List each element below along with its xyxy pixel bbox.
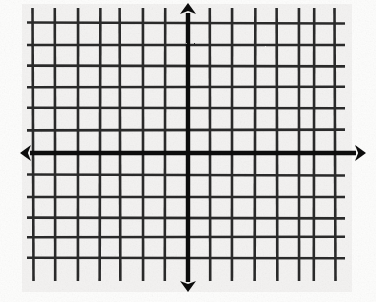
- grid-line-vertical: [335, 8, 336, 281]
- grid-line-vertical: [255, 8, 256, 281]
- grid-line-vertical: [33, 8, 34, 281]
- coordinate-grid-svg: [0, 0, 376, 302]
- grid-line-vertical: [277, 8, 278, 281]
- coordinate-grid-figure: [0, 0, 376, 302]
- grid-line-vertical: [120, 8, 121, 281]
- grid-line-vertical: [100, 8, 101, 281]
